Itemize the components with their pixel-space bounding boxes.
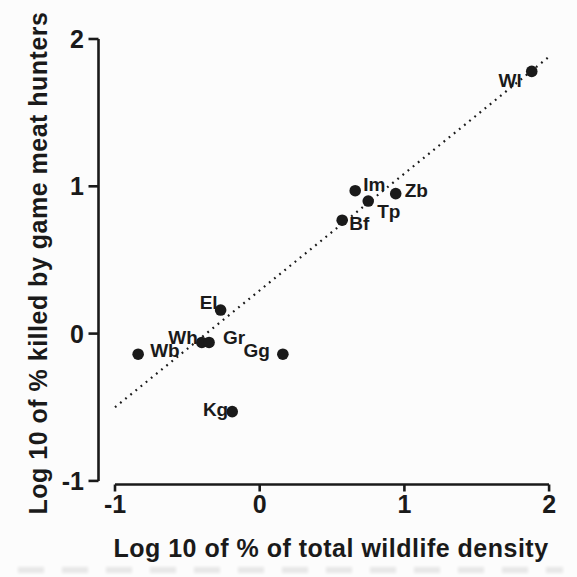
point-label-el: El: [200, 292, 218, 313]
y-axis-title: Log 10 of % killed by game meat hunters: [24, 12, 52, 515]
point-label-wb: Wb: [150, 340, 180, 361]
point-label-kg: Kg: [203, 399, 228, 420]
data-point-gg: [277, 348, 289, 360]
x-tick-label: 1: [397, 490, 411, 518]
y-tick-label: 2: [70, 25, 84, 53]
x-axis-title: Log 10 of % of total wildlife density: [113, 534, 548, 562]
data-point-im: [349, 185, 361, 197]
y-tick-label: 1: [70, 172, 84, 200]
x-tick-label: 2: [542, 490, 556, 518]
point-label-bf: Bf: [349, 213, 370, 234]
data-point-zb: [390, 188, 402, 200]
point-label-tp: Tp: [377, 201, 400, 222]
point-label-gr: Gr: [223, 327, 246, 348]
point-label-wl: Wl: [499, 70, 522, 91]
point-label-gg: Gg: [243, 340, 269, 361]
data-point-wb: [132, 348, 144, 360]
trend-line: [115, 57, 549, 408]
data-point-bf: [336, 214, 348, 226]
scatter-figure: -1012-1012WlImZbTpBfElWhGrWbGgKgLog 10 o…: [0, 0, 577, 577]
scan-artifact: [18, 567, 563, 573]
point-label-zb: Zb: [405, 180, 428, 201]
data-point-gr: [203, 337, 215, 349]
point-label-im: Im: [363, 174, 385, 195]
y-tick-label: -1: [62, 467, 84, 495]
data-point-tp: [362, 195, 374, 207]
data-point-wl: [526, 66, 538, 78]
scatter-chart: -1012-1012WlImZbTpBfElWhGrWbGgKgLog 10 o…: [0, 0, 577, 577]
x-tick-label: -1: [104, 490, 126, 518]
x-tick-label: 0: [253, 490, 267, 518]
y-tick-label: 0: [70, 320, 84, 348]
